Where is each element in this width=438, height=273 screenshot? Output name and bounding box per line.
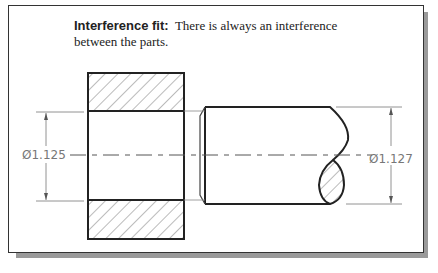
shaft-diameter-label: Ø1.127 (369, 152, 413, 166)
shaft-break-section (319, 160, 344, 204)
hole-dimension: Ø1.125 (22, 112, 84, 201)
hub-top-section (88, 73, 184, 111)
hub-bottom-section (88, 200, 184, 239)
hole-diameter-label: Ø1.125 (22, 148, 66, 162)
interference-fit-drawing: Ø1.125 Ø1.127 (0, 0, 438, 273)
hub-part (88, 73, 184, 239)
